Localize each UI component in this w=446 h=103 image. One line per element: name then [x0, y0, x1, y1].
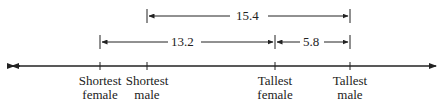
label-line1: Tallest [315, 74, 385, 88]
label-line2: male [112, 88, 182, 102]
label-line2: female [240, 88, 310, 102]
label-line1: Shortest [112, 74, 182, 88]
span-label-5-8: 5.8 [300, 35, 322, 49]
label-line1: Tallest [240, 74, 310, 88]
point-label-tallest-male: Tallest male [315, 74, 385, 102]
span-label-15-4: 15.4 [233, 9, 262, 23]
label-line2: male [315, 88, 385, 102]
point-label-tallest-female: Tallest female [240, 74, 310, 102]
span-label-13-2: 13.2 [168, 35, 197, 49]
point-label-shortest-male: Shortest male [112, 74, 182, 102]
